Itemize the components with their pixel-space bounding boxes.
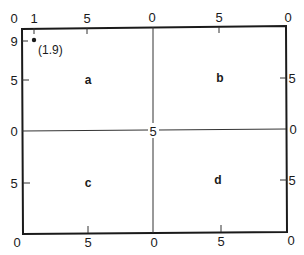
bottom-label-0: 0 <box>13 236 20 249</box>
top-label-1: 1 <box>30 12 37 25</box>
quadrant-a-label: a <box>85 74 92 86</box>
top-label-5: 5 <box>83 12 90 25</box>
quadrant-d-label: d <box>214 174 221 186</box>
left-label-5: 5 <box>10 74 17 87</box>
left-label-9: 9 <box>10 35 17 48</box>
center-label: 5 <box>148 125 157 138</box>
horizontal-divider-right <box>159 129 286 130</box>
data-point-label: (1.9) <box>38 44 63 56</box>
left-label-5-lower: 5 <box>10 177 17 190</box>
bottom-label-5: 5 <box>84 236 91 249</box>
top-label-0: 0 <box>10 12 17 25</box>
top-label-0-right: 0 <box>284 11 291 24</box>
bottom-label-5-right: 5 <box>217 235 224 248</box>
bottom-label-0-right: 0 <box>287 234 294 247</box>
top-label-5-right: 5 <box>215 11 222 24</box>
right-label-5: 5 <box>288 72 295 85</box>
horizontal-divider-left <box>22 130 148 131</box>
top-label-0-mid: 0 <box>148 11 155 24</box>
quadrant-c-label: c <box>85 177 92 189</box>
data-point-dot <box>32 38 36 42</box>
right-label-0: 0 <box>289 123 296 136</box>
quadrant-b-label: b <box>216 72 223 84</box>
left-label-0: 0 <box>10 125 17 138</box>
right-label-5-lower: 5 <box>288 174 295 187</box>
bottom-label-0-mid: 0 <box>150 236 157 249</box>
